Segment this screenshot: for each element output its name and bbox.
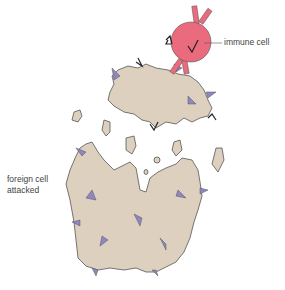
fragment [154, 157, 160, 163]
immune-cell [171, 22, 211, 62]
foreign-cell-label: foreign cell attacked [7, 174, 48, 196]
foreign-cell-label-line2: attacked [7, 185, 48, 196]
fragment [72, 110, 82, 122]
foreign-cell-label-line1: foreign cell [7, 174, 48, 185]
foreign-cell-upper-fragment [108, 64, 212, 128]
diagram: immune cell foreign cell attacked [0, 0, 285, 290]
fragment [172, 140, 182, 156]
foreign-cell-body [66, 142, 202, 272]
fragment [102, 120, 110, 136]
antibody-mark-icon [136, 58, 142, 66]
antigen-icon [200, 188, 208, 194]
antibody-icon [199, 8, 212, 24]
fragment [144, 170, 148, 175]
immune-cell-label: immune cell [224, 37, 269, 48]
fragment [212, 148, 224, 172]
antigen-icon [206, 92, 216, 98]
antibody-icon [192, 6, 199, 25]
fragment [126, 136, 136, 154]
antibody-mark-icon [208, 114, 216, 120]
